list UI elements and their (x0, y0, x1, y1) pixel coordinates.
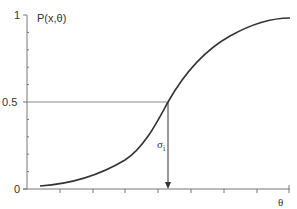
arrow-down-icon (165, 182, 171, 189)
y-tick-label-0.5: 0.5 (2, 96, 17, 108)
icc-chart: 1 0.5 0 P(x,θ) θ σi (0, 0, 297, 209)
x-axis-title: θ (278, 196, 283, 208)
sigma-label: σi (157, 138, 166, 153)
y-tick-label-0: 0 (14, 183, 20, 195)
y-tick-label-1: 1 (14, 9, 20, 21)
chart-canvas: 1 0.5 0 P(x,θ) θ σi (0, 0, 297, 209)
y-axis-title: P(x,θ) (37, 12, 66, 24)
sigma-subscript: i (163, 144, 166, 153)
